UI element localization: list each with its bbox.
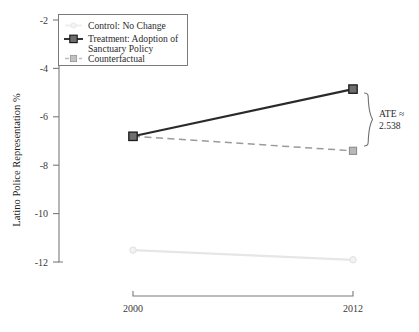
ate-label-line1: ATE ≈ <box>379 108 404 119</box>
x-tick-label: 2000 <box>123 303 143 314</box>
ate-brace <box>365 93 373 146</box>
chart-container: Latino Police Representation % -2 -4 -6 … <box>0 0 419 332</box>
series-counterfactual <box>129 133 356 155</box>
legend-swatch-treatment-marker <box>70 35 77 42</box>
y-tick-label: -10 <box>35 208 48 219</box>
treatment-marker <box>129 132 137 140</box>
y-tick: -10 <box>35 208 59 219</box>
counterfactual-line <box>133 136 353 151</box>
counterfactual-marker <box>349 147 356 154</box>
y-tick-label: -6 <box>40 111 48 122</box>
legend-label-control: Control: No Change <box>88 20 166 31</box>
y-tick: -2 <box>40 15 59 26</box>
x-tick-label: 2012 <box>343 303 363 314</box>
ate-label-line2: 2.538 <box>379 120 401 131</box>
series-treatment <box>129 85 357 141</box>
y-tick: -12 <box>35 257 59 268</box>
y-tick: -4 <box>40 63 59 74</box>
y-axis-ticks: -2 -4 -6 -8 -10 -12 <box>35 15 59 268</box>
legend: Control: No Change Treatment: Adoption o… <box>59 15 188 66</box>
legend-label-counterfactual: Counterfactual <box>88 53 145 64</box>
y-axis-title: Latino Police Representation % <box>11 93 22 227</box>
control-marker <box>350 257 356 263</box>
legend-swatch-control-marker <box>71 23 76 28</box>
control-line <box>133 250 353 260</box>
ate-annotation: ATE ≈ 2.538 <box>365 93 405 146</box>
control-marker <box>130 247 136 253</box>
y-tick: -6 <box>40 111 59 122</box>
y-tick: -8 <box>40 160 59 171</box>
y-tick-label: -2 <box>40 15 48 26</box>
y-tick-label: -12 <box>35 257 48 268</box>
legend-swatch-counterfactual-marker <box>70 55 76 61</box>
treatment-line <box>133 89 353 136</box>
treatment-marker <box>349 85 357 93</box>
series-control <box>130 247 356 263</box>
y-tick-label: -8 <box>40 160 48 171</box>
x-axis-line <box>133 291 353 296</box>
x-axis-ticks: 2000 2012 <box>123 303 363 314</box>
y-tick-label: -4 <box>40 63 48 74</box>
